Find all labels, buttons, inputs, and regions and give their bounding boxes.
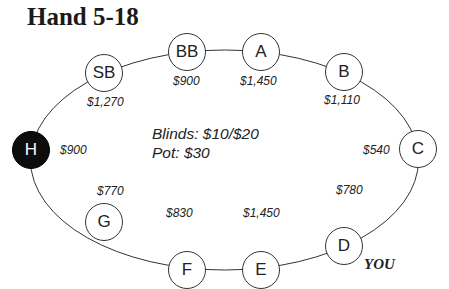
seat-d-you: D bbox=[325, 227, 363, 265]
seat-a: A bbox=[242, 33, 280, 71]
blinds-text: Blinds: $10/$20 bbox=[152, 124, 259, 143]
hand-info: Blinds: $10/$20 Pot: $30 bbox=[152, 124, 259, 162]
stack-g: $770 bbox=[97, 184, 124, 198]
seat-g: G bbox=[85, 203, 123, 241]
stack-f: $830 bbox=[166, 206, 193, 220]
stack-bb: $900 bbox=[173, 74, 200, 88]
seat-sb: SB bbox=[85, 54, 123, 92]
stack-c: $540 bbox=[363, 143, 390, 157]
stack-b: $1,110 bbox=[324, 93, 360, 107]
seat-f: F bbox=[168, 251, 206, 289]
you-label: YOU bbox=[364, 256, 395, 273]
stack-d: $780 bbox=[336, 183, 363, 197]
stack-h: $900 bbox=[60, 143, 87, 157]
seat-e: E bbox=[242, 251, 280, 289]
stack-e: $1,450 bbox=[243, 206, 280, 220]
seat-bb: BB bbox=[168, 33, 206, 71]
seat-h-highlighted: H bbox=[12, 131, 50, 169]
seat-c: C bbox=[399, 130, 437, 168]
seat-b: B bbox=[325, 53, 363, 91]
stack-a: $1,450 bbox=[240, 74, 277, 88]
stack-sb: $1,270 bbox=[87, 95, 124, 109]
pot-text: Pot: $30 bbox=[152, 143, 259, 162]
